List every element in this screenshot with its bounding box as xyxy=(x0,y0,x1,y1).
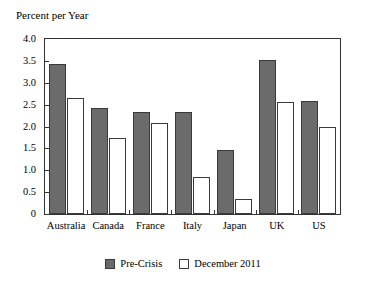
x-axis-tick-label-italy: Italy xyxy=(183,220,202,232)
x-axis-group-separator xyxy=(171,210,172,214)
bar-us-pre-crisis xyxy=(301,101,318,214)
bar-italy-pre-crisis xyxy=(175,112,192,214)
y-axis-tick-label: 1.0 xyxy=(23,165,36,176)
y-axis-tick-labels: 00.51.01.52.02.53.03.54.0 xyxy=(0,38,40,215)
legend-entry-december-2011: December 2011 xyxy=(179,258,260,270)
y-axis-tick-label: 4.0 xyxy=(23,34,36,45)
x-axis-group-separator xyxy=(129,210,130,214)
y-axis-tick-label: 0.5 xyxy=(23,187,36,198)
bar-france-december-2011 xyxy=(151,123,168,214)
y-axis-tick-label: 2.5 xyxy=(23,100,36,111)
bar-italy-december-2011 xyxy=(193,177,210,214)
bar-canada-pre-crisis xyxy=(91,108,108,214)
x-axis-group-separator xyxy=(298,210,299,214)
y-axis-tick-mark xyxy=(45,61,49,62)
x-axis-tick-labels: AustraliaCanadaFranceItalyJapanUKUS xyxy=(44,220,341,236)
x-axis-tick-label-us: US xyxy=(312,220,325,232)
y-axis-tick-label: 3.0 xyxy=(23,78,36,89)
x-axis-tick-label-canada: Canada xyxy=(92,220,124,232)
plot-inner xyxy=(45,39,340,214)
bar-canada-december-2011 xyxy=(109,138,126,214)
legend-entry-pre-crisis: Pre-Crisis xyxy=(105,258,162,270)
bar-japan-pre-crisis xyxy=(217,150,234,214)
x-axis-tick-label-japan: Japan xyxy=(223,220,247,232)
bar-japan-december-2011 xyxy=(235,199,252,214)
bar-chart: Percent per Year 00.51.01.52.02.53.03.54… xyxy=(0,0,366,285)
bar-us-december-2011 xyxy=(319,127,336,214)
y-axis-title: Percent per Year xyxy=(16,9,88,22)
bar-france-pre-crisis xyxy=(133,112,150,214)
x-axis-group-separator xyxy=(256,210,257,214)
y-axis-tick-label: 0 xyxy=(31,209,36,220)
bar-australia-december-2011 xyxy=(67,98,84,214)
y-axis-tick-label: 1.5 xyxy=(23,143,36,154)
x-axis-group-separator xyxy=(87,210,88,214)
bar-uk-december-2011 xyxy=(277,102,294,214)
legend-swatch-icon xyxy=(179,259,189,269)
x-axis-group-separator xyxy=(214,210,215,214)
bar-australia-pre-crisis xyxy=(49,64,66,214)
chart-legend: Pre-CrisisDecember 2011 xyxy=(0,256,366,272)
y-axis-tick-label: 3.5 xyxy=(23,56,36,67)
legend-label: December 2011 xyxy=(194,258,260,270)
x-axis-tick-label-uk: UK xyxy=(269,220,284,232)
plot-area xyxy=(44,38,341,215)
x-axis-tick-label-france: France xyxy=(136,220,165,232)
legend-label: Pre-Crisis xyxy=(120,258,162,270)
y-axis-tick-label: 2.0 xyxy=(23,122,36,133)
bar-uk-pre-crisis xyxy=(259,60,276,214)
x-axis-tick-label-australia: Australia xyxy=(47,220,86,232)
legend-swatch-icon xyxy=(105,259,115,269)
